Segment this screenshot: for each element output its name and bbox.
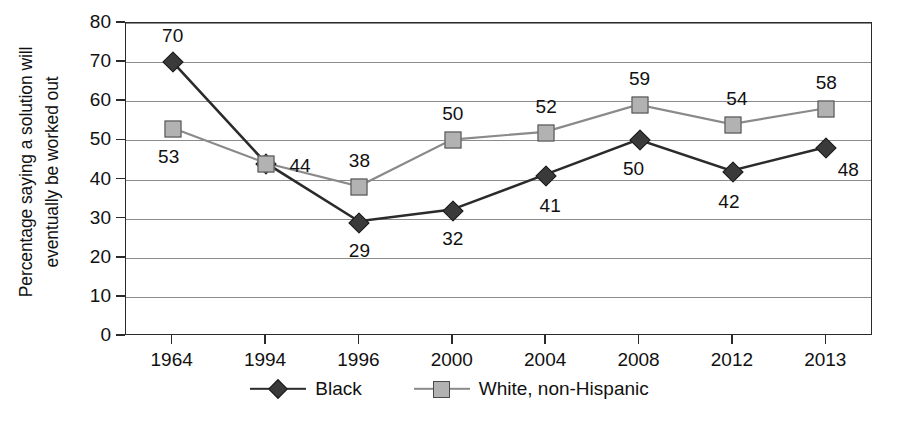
plot-area: 704429324150424853385052595458 <box>125 22 872 335</box>
y-tick-mark-10 <box>116 295 125 297</box>
data-marker-diamond-2004 <box>536 165 557 186</box>
legend-swatch-1 <box>250 379 306 399</box>
point-label-square-1996: 38 <box>349 150 370 172</box>
data-marker-square-2000 <box>444 132 461 149</box>
y-tick-label-10: 10 <box>51 285 111 307</box>
x-tick-label-2004: 2004 <box>524 349 566 371</box>
y-tick-mark-40 <box>116 178 125 180</box>
y-tick-label-20: 20 <box>51 246 111 268</box>
legend-item-1[interactable]: Black <box>250 378 361 400</box>
y-tick-label-30: 30 <box>51 207 111 229</box>
chart-legend: BlackWhite, non-Hispanic <box>0 378 899 400</box>
legend-label-2: White, non-Hispanic <box>479 378 649 400</box>
x-tick-mark-2004 <box>544 335 546 344</box>
legend-swatch-2 <box>414 379 470 399</box>
y-tick-label-50: 50 <box>51 128 111 150</box>
y-tick-label-70: 70 <box>51 50 111 72</box>
series-lines <box>126 23 871 334</box>
data-marker-square-2013 <box>818 101 835 118</box>
gridline-20 <box>126 258 871 259</box>
data-marker-square-1996 <box>351 179 368 196</box>
point-label-square-2012: 54 <box>726 88 747 110</box>
y-tick-mark-80 <box>116 21 125 23</box>
data-marker-diamond-2008 <box>629 130 650 151</box>
legend-marker-square-icon <box>433 381 450 398</box>
y-tick-label-40: 40 <box>51 168 111 190</box>
data-marker-diamond-1964 <box>162 52 183 73</box>
point-label-diamond-1964: 70 <box>162 25 183 47</box>
point-label-diamond-1994: 44 <box>289 155 310 177</box>
x-tick-label-1996: 1996 <box>337 349 379 371</box>
point-label-square-1964: 53 <box>158 146 179 168</box>
x-tick-mark-1964 <box>171 335 173 344</box>
x-tick-mark-1994 <box>264 335 266 344</box>
data-marker-square-2008 <box>631 97 648 114</box>
gridline-80 <box>126 23 871 24</box>
x-tick-mark-2013 <box>825 335 827 344</box>
legend-marker-diamond-icon <box>268 379 288 399</box>
x-tick-mark-1996 <box>358 335 360 344</box>
y-tick-mark-50 <box>116 139 125 141</box>
point-label-square-2004: 52 <box>536 96 557 118</box>
x-tick-label-1994: 1994 <box>244 349 286 371</box>
chart-figure: Percentage saying a solution will eventu… <box>0 0 899 437</box>
gridline-70 <box>126 62 871 63</box>
data-marker-square-2012 <box>724 116 741 133</box>
gridline-10 <box>126 297 871 298</box>
x-tick-label-2013: 2013 <box>804 349 846 371</box>
data-marker-square-2004 <box>538 124 555 141</box>
point-label-diamond-2012: 42 <box>718 191 739 213</box>
x-tick-label-2000: 2000 <box>431 349 473 371</box>
y-tick-label-80: 80 <box>51 11 111 33</box>
gridline-60 <box>126 101 871 102</box>
x-tick-label-1964: 1964 <box>151 349 193 371</box>
x-tick-label-2008: 2008 <box>617 349 659 371</box>
point-label-diamond-2013: 48 <box>838 159 859 181</box>
y-tick-mark-30 <box>116 217 125 219</box>
x-tick-mark-2012 <box>731 335 733 344</box>
x-tick-mark-2000 <box>451 335 453 344</box>
y-tick-mark-70 <box>116 60 125 62</box>
point-label-diamond-2000: 32 <box>442 228 463 250</box>
gridline-50 <box>126 140 871 141</box>
point-label-square-2013: 58 <box>816 72 837 94</box>
y-tick-label-60: 60 <box>51 89 111 111</box>
gridline-30 <box>126 219 871 220</box>
point-label-square-2000: 50 <box>442 103 463 125</box>
point-label-square-2008: 59 <box>629 68 650 90</box>
point-label-diamond-2004: 41 <box>540 195 561 217</box>
point-label-diamond-1996: 29 <box>349 240 370 262</box>
x-tick-mark-2008 <box>638 335 640 344</box>
data-marker-square-1994 <box>258 155 275 172</box>
gridline-40 <box>126 180 871 181</box>
y-axis-title-line-1: Percentage saying a solution will <box>16 47 37 298</box>
legend-label-1: Black <box>315 378 361 400</box>
data-marker-diamond-1996 <box>349 212 370 233</box>
y-tick-mark-60 <box>116 99 125 101</box>
y-tick-mark-0 <box>116 334 125 336</box>
y-tick-label-0: 0 <box>51 324 111 346</box>
data-marker-square-1964 <box>164 120 181 137</box>
y-tick-mark-20 <box>116 256 125 258</box>
point-label-diamond-2008: 50 <box>623 158 644 180</box>
legend-item-2[interactable]: White, non-Hispanic <box>414 378 649 400</box>
x-tick-label-2012: 2012 <box>711 349 753 371</box>
